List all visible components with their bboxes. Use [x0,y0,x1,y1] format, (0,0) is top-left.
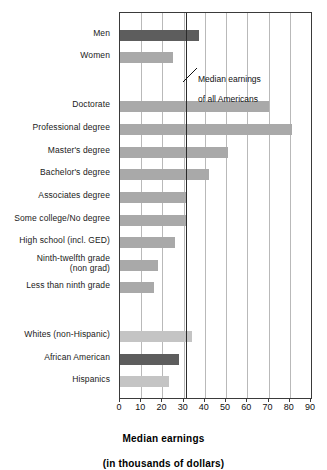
category-label: Less than ninth grade [26,281,110,291]
category-label: Doctorate [72,100,110,110]
gridline-80 [290,13,291,398]
category-label: Ninth-twelfth grade (non grad) [37,254,110,273]
gridline-70 [269,13,270,398]
bar [120,331,192,342]
bar [120,354,179,365]
bar [120,376,169,387]
x-axis-title-line-2: (in thousands of dollars) [103,458,225,469]
x-axis-title-line-1: Median earnings [123,433,205,444]
category-label: Professional degree [32,123,110,133]
x-axis: 0102030405060708090 [119,398,310,414]
bar [120,192,186,203]
category-label: Master's degree [48,146,110,156]
annotation-line-2: of all Americans [198,94,258,104]
bar [120,215,186,226]
bar [120,147,228,158]
bar [120,260,158,271]
category-label: Whites (non-Hispanic) [24,330,110,340]
annotation-line-1: Median earnings [198,74,261,84]
category-label: Associates degree [38,191,110,201]
annotation-leader-line [183,67,199,83]
category-label: African American [44,353,110,363]
median-annotation-label: Median earnings of all Americans [198,64,261,104]
category-label: Hispanics [72,375,110,385]
category-label: Some college/No degree [14,214,110,224]
bar [120,237,175,248]
category-label: Men [93,29,110,39]
x-tick-label-90: 90 [298,402,322,412]
category-label: High school (incl. GED) [19,236,110,246]
plot-area: Median earnings of all Americans [119,12,312,399]
category-label: Bachelor's degree [40,168,110,178]
bar [120,52,173,63]
bar [120,124,292,135]
bar [120,282,154,293]
category-label-column: MenWomenDoctorateProfessional degreeMast… [0,12,114,397]
bar [120,169,209,180]
category-label: Women [80,51,110,61]
x-axis-title: Median earnings (in thousands of dollars… [0,420,327,470]
